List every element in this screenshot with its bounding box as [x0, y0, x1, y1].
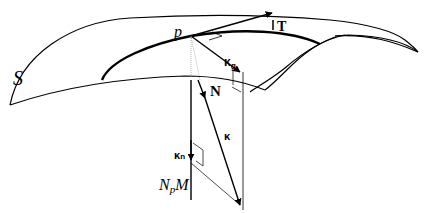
kg-right-angle [232, 87, 241, 92]
normal-line-M: M [175, 176, 188, 193]
surface-curvature-diagram: S p T N κ κg κn NpM [0, 0, 427, 213]
dotted-guide-2 [191, 36, 200, 80]
label-point: p [174, 24, 182, 40]
label-curvature: κ [224, 131, 230, 142]
label-surface: S [13, 68, 23, 88]
normal-line-N: N [159, 176, 170, 193]
kn-subscript: n [180, 152, 185, 161]
label-normal: N [210, 84, 221, 99]
curve-on-surface [102, 31, 320, 80]
label-normal-line: NpM [159, 177, 189, 195]
label-tangent: T [277, 20, 286, 34]
curvature-vector [205, 98, 240, 205]
label-geodesic-curvature: κg [224, 56, 236, 70]
principal-normal-vector [198, 80, 205, 98]
kg-subscript: g [231, 61, 236, 71]
diagram-canvas [0, 0, 427, 213]
kg-symbol: κ [224, 55, 231, 69]
label-normal-curvature: κn [174, 150, 185, 161]
kn-right-angle [193, 143, 203, 166]
